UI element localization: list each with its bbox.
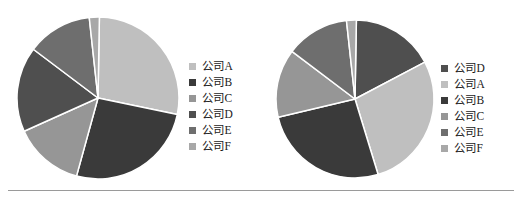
- legend-item-公司A[interactable]: 公司A: [189, 58, 233, 74]
- pie-chart-1-block: 公司A公司B公司C公司D公司E公司F: [0, 0, 261, 199]
- pie-svg: [15, 15, 181, 181]
- legend-item-公司E[interactable]: 公司E: [189, 122, 233, 138]
- legend-label: 公司E: [454, 124, 484, 140]
- legend-label: 公司B: [202, 74, 232, 90]
- legend-label: 公司F: [454, 140, 483, 156]
- legend-item-公司C[interactable]: 公司C: [441, 108, 485, 124]
- pie-svg: [274, 18, 436, 180]
- legend-item-公司B[interactable]: 公司B: [189, 74, 233, 90]
- legend-item-公司A[interactable]: 公司A: [441, 76, 485, 92]
- legend-item-公司F[interactable]: 公司F: [189, 138, 233, 154]
- legend-swatch-icon: [441, 65, 448, 72]
- legend-swatch-icon: [441, 113, 448, 120]
- legend-label: 公司C: [454, 108, 484, 124]
- legend-swatch-icon: [189, 111, 196, 118]
- bottom-divider: [8, 190, 514, 191]
- pie-chart-2[interactable]: [274, 18, 436, 180]
- screenshot-canvas: 公司A公司B公司C公司D公司E公司F 公司D公司A公司B公司C公司E公司F: [0, 0, 522, 199]
- legend-item-公司F[interactable]: 公司F: [441, 140, 485, 156]
- legend-swatch-icon: [189, 127, 196, 134]
- legend-chart-1: 公司A公司B公司C公司D公司E公司F: [189, 58, 233, 154]
- pie-chart-1[interactable]: [15, 15, 181, 181]
- legend-item-公司E[interactable]: 公司E: [441, 124, 485, 140]
- legend-label: 公司F: [202, 138, 231, 154]
- legend-item-公司D[interactable]: 公司D: [441, 60, 485, 76]
- legend-swatch-icon: [189, 95, 196, 102]
- legend-label: 公司D: [454, 60, 485, 76]
- legend-label: 公司B: [454, 92, 484, 108]
- legend-swatch-icon: [189, 143, 196, 150]
- legend-item-公司C[interactable]: 公司C: [189, 90, 233, 106]
- legend-item-公司B[interactable]: 公司B: [441, 92, 485, 108]
- legend-label: 公司D: [202, 106, 233, 122]
- pie-chart-2-block: 公司D公司A公司B公司C公司E公司F: [261, 0, 522, 199]
- legend-swatch-icon: [441, 81, 448, 88]
- legend-item-公司D[interactable]: 公司D: [189, 106, 233, 122]
- legend-label: 公司E: [202, 122, 232, 138]
- legend-chart-2: 公司D公司A公司B公司C公司E公司F: [441, 60, 485, 156]
- legend-swatch-icon: [441, 97, 448, 104]
- legend-swatch-icon: [189, 63, 196, 70]
- legend-swatch-icon: [189, 79, 196, 86]
- legend-swatch-icon: [441, 129, 448, 136]
- legend-label: 公司A: [202, 58, 233, 74]
- legend-swatch-icon: [441, 145, 448, 152]
- legend-label: 公司A: [454, 76, 485, 92]
- legend-label: 公司C: [202, 90, 232, 106]
